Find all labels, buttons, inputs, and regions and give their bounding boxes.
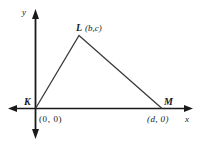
x-axis-left-arrow-icon <box>8 105 17 112</box>
y-axis <box>32 9 39 139</box>
vertex-l-name: L <box>75 22 82 33</box>
triangle-klm <box>36 36 163 109</box>
vertex-k-name: K <box>23 96 32 107</box>
x-axis-right-arrow-icon <box>184 105 193 112</box>
y-axis-label: y <box>21 7 26 17</box>
coordinate-diagram: y x L (b,c) K (0, 0) M (d, 0) <box>0 0 198 145</box>
x-axis-label: x <box>184 114 189 124</box>
vertex-m-name: M <box>163 96 174 107</box>
vertex-k-coords: (0, 0) <box>39 114 62 124</box>
vertex-m-coords: (d, 0) <box>147 114 169 124</box>
y-axis-up-arrow-icon <box>32 9 39 19</box>
y-axis-down-arrow-icon <box>32 129 39 139</box>
vertex-l-coords: (b,c) <box>85 23 102 33</box>
